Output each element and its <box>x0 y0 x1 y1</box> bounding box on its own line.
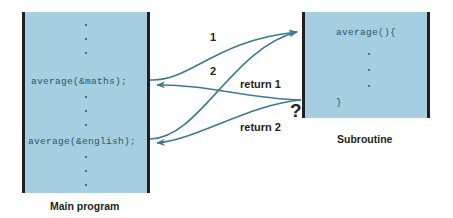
main-program-call-english: average(&english); <box>28 136 136 147</box>
ellipsis-dot <box>85 96 87 98</box>
ellipsis-dot <box>85 156 87 158</box>
subroutine-footer-line: } <box>336 97 342 108</box>
ellipsis-dot <box>85 24 87 26</box>
ambiguity-question-mark: ? <box>290 100 302 122</box>
ellipsis-dot <box>85 110 87 112</box>
ellipsis-dot <box>368 53 370 55</box>
ellipsis-dot <box>85 124 87 126</box>
call-label-2: 2 <box>210 65 216 77</box>
return-label-1: return 1 <box>240 78 281 90</box>
ellipsis-dot <box>85 184 87 186</box>
ellipsis-dot <box>368 69 370 71</box>
main-program-call-maths: average(&maths); <box>31 76 127 87</box>
ellipsis-dot <box>85 52 87 54</box>
ellipsis-dot <box>368 85 370 87</box>
ellipsis-dot <box>85 170 87 172</box>
call-label-1: 1 <box>210 31 216 43</box>
return-label-2: return 2 <box>240 121 281 133</box>
call-arrow-1 <box>150 32 297 80</box>
diagram-root: average(&maths); average(&english); aver… <box>0 0 453 218</box>
main-program-caption: Main program <box>50 200 119 212</box>
subroutine-header-line: average(){ <box>336 27 396 38</box>
ellipsis-dot <box>85 38 87 40</box>
subroutine-caption: Subroutine <box>337 133 392 145</box>
